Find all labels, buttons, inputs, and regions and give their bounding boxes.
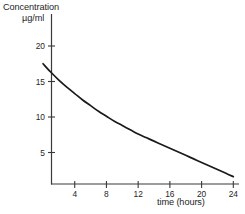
- y-tick-label: 5: [40, 148, 45, 158]
- x-tick-label: 4: [72, 189, 77, 199]
- x-tick-label: 20: [197, 189, 207, 199]
- x-tick-label: 24: [229, 189, 239, 199]
- y-tick-label: 20: [36, 41, 46, 51]
- x-tick-label: 16: [165, 189, 175, 199]
- concentration-decay-curve: [43, 64, 233, 177]
- plot-area: 5101520 4812162024: [0, 0, 245, 214]
- x-tick-label: 12: [133, 189, 143, 199]
- x-tick-label: 8: [104, 189, 109, 199]
- y-tick-label: 15: [36, 77, 46, 87]
- y-tick-label: 10: [36, 112, 46, 122]
- chart-figure: Concentration µg/ml time (hours) 5101520…: [0, 0, 245, 214]
- y-axis-tick-group: 5101520: [36, 41, 55, 158]
